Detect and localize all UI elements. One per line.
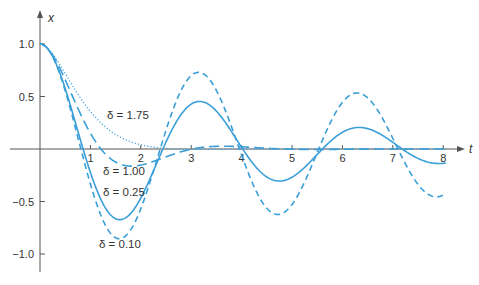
x-tick-label: 1 xyxy=(87,152,93,164)
x-ticks: 12345678 xyxy=(87,145,446,164)
x-tick-label: 7 xyxy=(390,152,396,164)
x-tick-label: 2 xyxy=(138,152,144,164)
curve-label: δ = 1.75 xyxy=(107,109,149,121)
curve-label: δ = 0.25 xyxy=(103,186,145,198)
curve-delta-0-25 xyxy=(40,44,446,220)
axes: x t 12345678 1.00.5−0.5−1.0 xyxy=(10,10,473,272)
curves xyxy=(40,44,446,239)
y-tick-label: 0.5 xyxy=(19,91,34,103)
x-tick-label: 5 xyxy=(289,152,295,164)
y-axis-label: x xyxy=(47,11,55,25)
damped-oscillation-chart: x t 12345678 1.00.5−0.5−1.0 δ = 1.75δ = … xyxy=(0,0,479,285)
x-tick-label: 3 xyxy=(188,152,194,164)
y-axis-arrow-icon xyxy=(37,10,43,18)
curve-delta-1 xyxy=(40,44,446,166)
y-tick-label: 1.0 xyxy=(19,38,34,50)
x-axis-arrow-icon xyxy=(457,146,465,152)
curve-delta-1-75 xyxy=(40,44,446,149)
y-tick-label: −0.5 xyxy=(12,196,34,208)
x-tick-label: 8 xyxy=(440,152,446,164)
x-axis-label: t xyxy=(469,142,473,156)
curve-labels: δ = 1.75δ = 1.00δ = 0.25δ = 0.10 xyxy=(99,109,149,250)
x-tick-label: 6 xyxy=(339,152,345,164)
curve-label: δ = 0.10 xyxy=(99,238,141,250)
y-tick-label: −1.0 xyxy=(12,248,34,260)
curve-label: δ = 1.00 xyxy=(103,165,145,177)
curve-delta-0-1 xyxy=(40,44,446,239)
